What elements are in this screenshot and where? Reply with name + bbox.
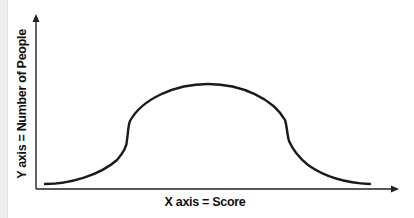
distribution-diagram: Y axis = Number of People X axis = Score: [0, 0, 414, 218]
y-axis-label: Y axis = Number of People: [15, 29, 29, 179]
distribution-curve: [45, 84, 370, 184]
x-axis-label: X axis = Score: [165, 195, 246, 209]
y-axis-arrow-icon: [33, 14, 40, 22]
x-axis-arrow-icon: [391, 186, 399, 193]
